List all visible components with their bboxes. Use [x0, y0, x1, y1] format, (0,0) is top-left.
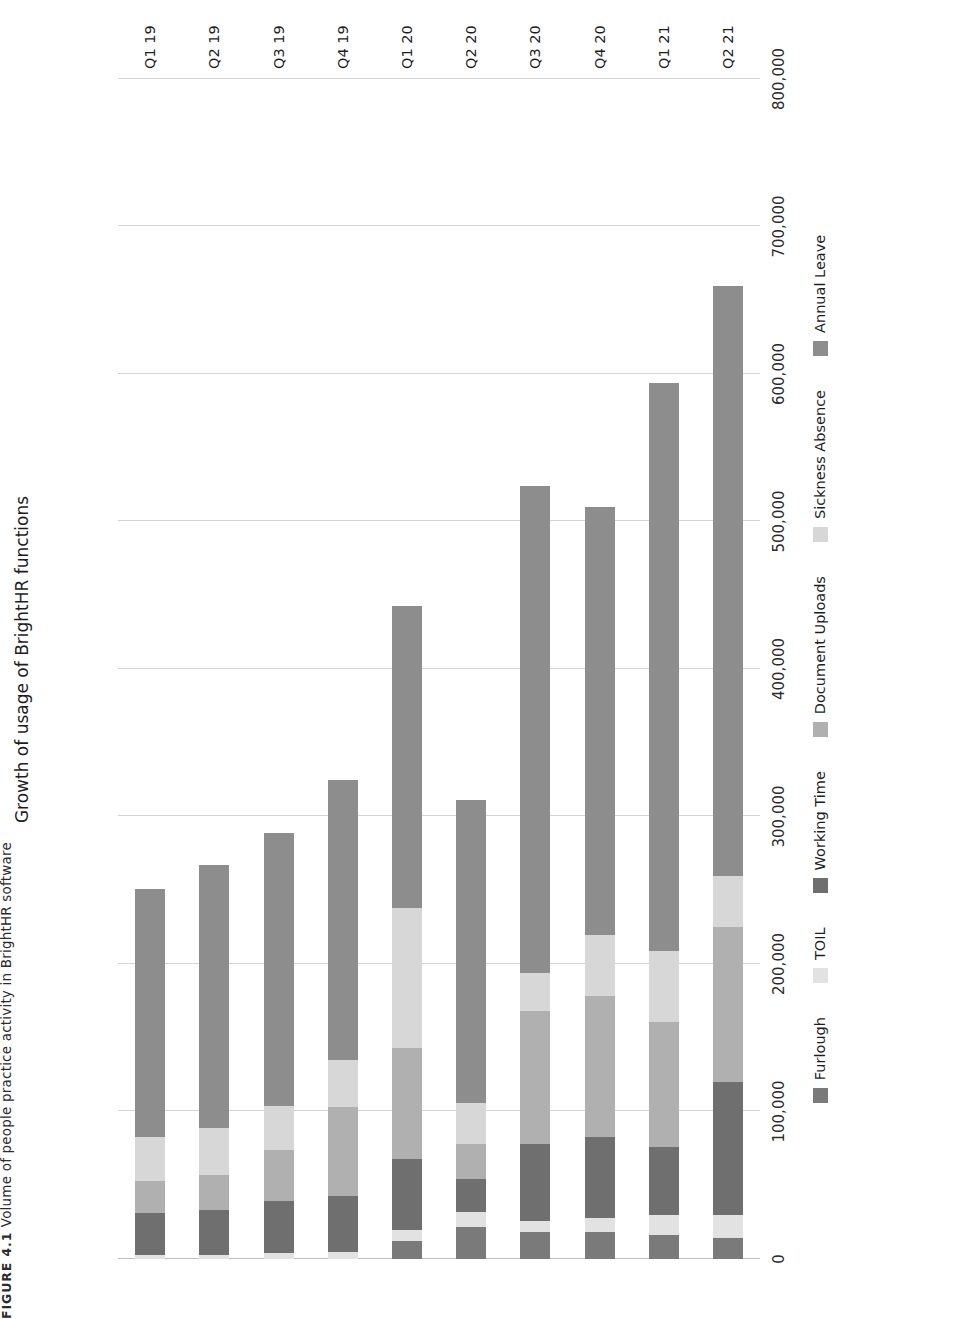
bar-segment-sickness-absence[interactable]: [264, 1106, 294, 1150]
bar-segment-document-uploads[interactable]: [713, 927, 743, 1082]
bar-segment-working-time[interactable]: [392, 1159, 422, 1230]
x-tick-label: 0: [770, 1254, 788, 1264]
category-label: Q2 21: [720, 25, 736, 69]
legend-item-toil[interactable]: TOIL: [812, 927, 828, 983]
figure-page: FIGURE 4.1 Volume of people practice act…: [0, 0, 953, 1319]
chart-title: Growth of usage of BrightHR functions: [12, 0, 32, 1319]
x-tick-label: 300,000: [770, 785, 788, 847]
legend-swatch-icon: [813, 878, 828, 893]
bar-segment-annual-leave[interactable]: [456, 800, 486, 1102]
x-tick-label: 100,000: [770, 1080, 788, 1142]
category-label: Q2 19: [206, 25, 222, 69]
legend-label: Furlough: [812, 1017, 828, 1080]
bar-segment-toil[interactable]: [520, 1221, 550, 1233]
legend-swatch-icon: [813, 968, 828, 983]
legend-swatch-icon: [813, 341, 828, 356]
bar-segment-document-uploads[interactable]: [135, 1181, 165, 1213]
bar-segment-annual-leave[interactable]: [713, 286, 743, 876]
bar-segment-sickness-absence[interactable]: [199, 1128, 229, 1175]
bar-segment-document-uploads[interactable]: [456, 1144, 486, 1179]
bar-q1-21[interactable]: [649, 383, 679, 1259]
bar-segment-annual-leave[interactable]: [649, 383, 679, 951]
legend-item-sickness-absence[interactable]: Sickness Absence: [812, 390, 828, 542]
bar-segment-working-time[interactable]: [264, 1201, 294, 1253]
bar-q3-20[interactable]: [520, 486, 550, 1259]
category-label: Q4 19: [335, 25, 351, 69]
bar-segment-document-uploads[interactable]: [585, 996, 615, 1136]
bar-segment-furlough[interactable]: [456, 1227, 486, 1259]
bar-segment-document-uploads[interactable]: [199, 1175, 229, 1210]
category-label: Q3 19: [271, 25, 287, 69]
bar-segment-sickness-absence[interactable]: [392, 908, 422, 1048]
bar-segment-annual-leave[interactable]: [199, 865, 229, 1128]
bar-q2-21[interactable]: [713, 286, 743, 1260]
bar-segment-working-time[interactable]: [135, 1213, 165, 1254]
bar-q4-20[interactable]: [585, 507, 615, 1259]
bar-q4-19[interactable]: [328, 780, 358, 1259]
bar-segment-working-time[interactable]: [199, 1210, 229, 1254]
bar-segment-furlough[interactable]: [520, 1232, 550, 1259]
bar-segment-toil[interactable]: [713, 1215, 743, 1239]
legend-label: Document Uploads: [812, 576, 828, 714]
bar-segment-document-uploads[interactable]: [392, 1048, 422, 1159]
gridline: [118, 373, 760, 374]
bar-segment-document-uploads[interactable]: [649, 1022, 679, 1147]
bar-segment-furlough[interactable]: [713, 1238, 743, 1259]
bar-segment-sickness-absence[interactable]: [585, 935, 615, 997]
bar-segment-furlough[interactable]: [649, 1235, 679, 1259]
bar-segment-annual-leave[interactable]: [328, 780, 358, 1060]
bar-q1-19[interactable]: [135, 889, 165, 1259]
bar-q1-20[interactable]: [392, 606, 422, 1259]
category-label: Q1 20: [399, 25, 415, 69]
bar-segment-document-uploads[interactable]: [520, 1011, 550, 1144]
bar-segment-working-time[interactable]: [649, 1147, 679, 1215]
bar-segment-toil[interactable]: [328, 1252, 358, 1259]
bar-segment-toil[interactable]: [392, 1230, 422, 1242]
bar-segment-sickness-absence[interactable]: [520, 973, 550, 1011]
category-label: Q2 20: [463, 25, 479, 69]
bar-segment-working-time[interactable]: [713, 1082, 743, 1215]
category-label: Q4 20: [592, 25, 608, 69]
legend-item-working-time[interactable]: Working Time: [812, 771, 828, 893]
legend-label: Sickness Absence: [812, 390, 828, 519]
bar-segment-furlough[interactable]: [585, 1232, 615, 1259]
bar-segment-working-time[interactable]: [520, 1144, 550, 1221]
bar-segment-toil[interactable]: [135, 1255, 165, 1259]
bar-q2-19[interactable]: [199, 865, 229, 1259]
bar-segment-sickness-absence[interactable]: [713, 876, 743, 928]
legend-item-annual-leave[interactable]: Annual Leave: [812, 235, 828, 356]
bar-segment-toil[interactable]: [199, 1255, 229, 1259]
legend-swatch-icon: [813, 1088, 828, 1103]
bar-segment-annual-leave[interactable]: [135, 889, 165, 1137]
bar-segment-sickness-absence[interactable]: [456, 1103, 486, 1144]
plot-area: 0100,000200,000300,000400,000500,000600,…: [118, 79, 760, 1259]
bar-segment-toil[interactable]: [649, 1215, 679, 1236]
bar-segment-sickness-absence[interactable]: [649, 951, 679, 1022]
bar-segment-annual-leave[interactable]: [392, 606, 422, 908]
legend-swatch-icon: [813, 527, 828, 542]
legend-item-furlough[interactable]: Furlough: [812, 1017, 828, 1103]
x-tick-label: 800,000: [770, 48, 788, 110]
bar-segment-toil[interactable]: [456, 1212, 486, 1227]
bar-segment-sickness-absence[interactable]: [135, 1137, 165, 1181]
bar-segment-annual-leave[interactable]: [585, 507, 615, 935]
legend-swatch-icon: [813, 722, 828, 737]
bar-segment-annual-leave[interactable]: [520, 486, 550, 973]
bar-segment-toil[interactable]: [585, 1218, 615, 1233]
bar-q3-19[interactable]: [264, 833, 294, 1259]
bar-segment-furlough[interactable]: [392, 1241, 422, 1259]
bar-segment-toil[interactable]: [264, 1253, 294, 1259]
bar-segment-working-time[interactable]: [585, 1137, 615, 1218]
legend-item-document-uploads[interactable]: Document Uploads: [812, 576, 828, 737]
chart-rotated-container: Growth of usage of BrightHR functions 01…: [0, 0, 953, 1319]
bar-segment-annual-leave[interactable]: [264, 833, 294, 1106]
x-tick-label: 500,000: [770, 490, 788, 552]
bar-segment-sickness-absence[interactable]: [328, 1060, 358, 1107]
bar-segment-document-uploads[interactable]: [328, 1107, 358, 1196]
bar-segment-working-time[interactable]: [456, 1179, 486, 1211]
bar-q2-20[interactable]: [456, 800, 486, 1259]
x-tick-label: 600,000: [770, 343, 788, 405]
bar-segment-document-uploads[interactable]: [264, 1150, 294, 1202]
category-label: Q3 20: [527, 25, 543, 69]
bar-segment-working-time[interactable]: [328, 1196, 358, 1252]
